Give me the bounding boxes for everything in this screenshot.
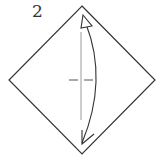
- origami-diagram: 2: [0, 0, 161, 161]
- step-number: 2: [32, 3, 43, 20]
- diagram-canvas: [0, 0, 161, 161]
